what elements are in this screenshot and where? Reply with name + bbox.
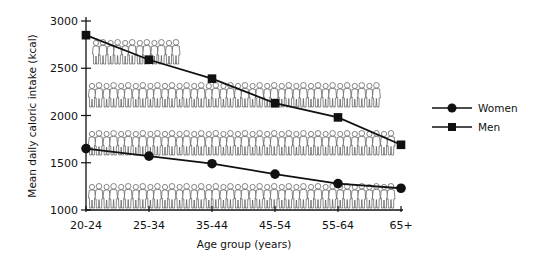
person-figure (307, 83, 322, 108)
person-figure (88, 131, 103, 156)
data-point-square (397, 140, 406, 149)
legend-label-women: Women (478, 102, 518, 114)
person-figure (322, 83, 337, 108)
data-point-circle (396, 183, 406, 193)
person-figure (191, 83, 206, 108)
data-point-circle (270, 169, 280, 179)
person-figure (205, 184, 220, 209)
person-figure (307, 131, 322, 156)
person-figure (161, 131, 176, 156)
person-figure (234, 83, 249, 108)
x-tick-label: 45-54 (259, 219, 291, 232)
person-figure (264, 184, 279, 209)
person-figure (191, 131, 206, 156)
y-tick-label: 2000 (50, 110, 78, 123)
person-figure (132, 184, 147, 209)
data-point-square (145, 55, 154, 64)
data-point-square (271, 99, 280, 108)
data-point-circle (333, 179, 343, 189)
legend-square-icon (448, 123, 456, 131)
person-figure (264, 131, 279, 156)
person-figure (118, 83, 133, 108)
person-figure (220, 184, 235, 209)
x-tick-label: 25-34 (133, 219, 165, 232)
legend-circle-icon (448, 104, 457, 113)
person-figure (88, 83, 103, 108)
data-point-square (334, 113, 343, 122)
person-figure (118, 131, 133, 156)
person-figure (293, 131, 308, 156)
person-figure (366, 83, 381, 108)
person-figure (107, 40, 122, 65)
y-tick-label: 2500 (50, 62, 78, 75)
y-tick-label: 1500 (50, 157, 78, 170)
person-figure (249, 184, 264, 209)
person-figure (176, 83, 191, 108)
data-point-square (82, 31, 91, 40)
data-point-square (208, 74, 217, 83)
person-figure (147, 131, 162, 156)
person-figure (234, 131, 249, 156)
x-tick-label: 20-24 (70, 219, 102, 232)
person-figure (205, 83, 220, 108)
y-tick-label: 1000 (50, 204, 78, 217)
x-axis-title: Age group (years) (197, 238, 292, 250)
person-figure (88, 184, 103, 209)
person-figure (147, 83, 162, 108)
data-point-circle (81, 144, 91, 154)
person-figure (176, 131, 191, 156)
y-tick-label: 3000 (50, 15, 78, 28)
person-figure (351, 184, 366, 209)
person-figure (205, 131, 220, 156)
data-point-circle (144, 151, 154, 161)
data-point-circle (207, 159, 217, 169)
person-figure (103, 184, 118, 209)
person-figure (132, 83, 147, 108)
person-figure (322, 184, 337, 209)
y-axis-title: Mean daily caloric intake (kcal) (26, 34, 38, 197)
person-figure (293, 83, 308, 108)
person-figure (165, 40, 180, 65)
legend-label-men: Men (478, 121, 500, 133)
person-figure (234, 184, 249, 209)
person-figure (118, 184, 133, 209)
person-figure (132, 131, 147, 156)
person-figure (147, 184, 162, 209)
person-figure (103, 83, 118, 108)
line-chart: 1000150020002500300020-2425-3435-4445-54… (0, 0, 539, 268)
figure-background (88, 40, 395, 209)
person-figure (220, 131, 235, 156)
legend: WomenMen (432, 102, 518, 133)
person-figure (161, 184, 176, 209)
x-tick-label: 35-44 (196, 219, 228, 232)
person-figure (278, 184, 293, 209)
person-figure (380, 131, 395, 156)
person-figure (307, 184, 322, 209)
person-figure (351, 83, 366, 108)
x-tick-label: 55-64 (322, 219, 354, 232)
person-figure (337, 131, 352, 156)
person-figure (278, 131, 293, 156)
person-figure (161, 83, 176, 108)
person-figure (322, 131, 337, 156)
person-figure (249, 131, 264, 156)
x-tick-label: 65+ (389, 219, 412, 232)
person-figure (293, 184, 308, 209)
person-figure (337, 83, 352, 108)
person-figure (176, 184, 191, 209)
person-figure (191, 184, 206, 209)
person-figure (278, 83, 293, 108)
person-figure (351, 131, 366, 156)
